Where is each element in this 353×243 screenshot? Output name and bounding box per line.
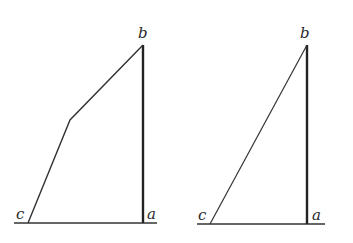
left-label-b: b: [138, 24, 148, 42]
right-hypotenuse-bc: [210, 45, 307, 224]
right-figure: b c a: [197, 24, 325, 224]
right-label-c: c: [198, 206, 207, 224]
diagram-canvas: b c a b c a: [0, 0, 353, 243]
left-label-a: a: [147, 205, 156, 223]
left-label-c: c: [16, 205, 25, 223]
left-figure: b c a: [14, 24, 157, 223]
left-bent-line-bc: [28, 45, 143, 223]
right-label-a: a: [312, 206, 321, 224]
right-label-b: b: [300, 24, 310, 42]
